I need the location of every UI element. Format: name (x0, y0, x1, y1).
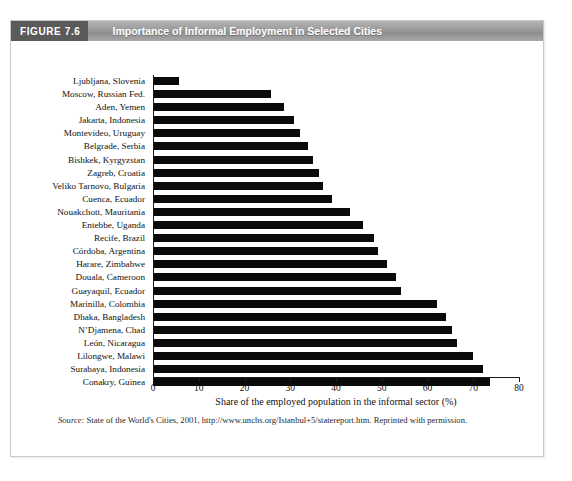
bar-row (153, 258, 519, 271)
y-axis-tick-label: Aden, Yemen (11, 101, 149, 114)
bar (153, 221, 363, 229)
x-axis-tick (290, 377, 291, 382)
bar-row (153, 245, 519, 258)
bar-row (153, 127, 519, 140)
bar-row (153, 271, 519, 284)
bar (153, 352, 473, 360)
x-axis-title: Share of the employed population in the … (153, 396, 519, 407)
bar (153, 287, 401, 295)
bar (153, 103, 284, 111)
bar-row (153, 337, 519, 350)
x-axis-tick-label: 80 (514, 383, 524, 393)
bar (153, 156, 313, 164)
bar-row (153, 298, 519, 311)
bar (153, 77, 179, 85)
y-axis-tick-label: Córdoba, Argentina (11, 245, 149, 258)
y-axis-tick-label: Lilongwe, Malawi (11, 350, 149, 363)
y-axis-tick-label: Marinilla, Colombia (11, 298, 149, 311)
figure-number-badge: FIGURE 7.6 (11, 21, 88, 41)
x-axis-tick (245, 377, 246, 382)
source-text: State of the World's Cities, 2001, http:… (84, 415, 467, 425)
x-axis-tick-label: 0 (151, 383, 156, 393)
y-axis-tick-label: Ljubljana, Slovenia (11, 75, 149, 88)
bar-row (153, 232, 519, 245)
y-axis-tick-label: Nouakchott, Mauritania (11, 206, 149, 219)
bar (153, 129, 300, 137)
y-axis-tick-label: N’Djamena, Chad (11, 324, 149, 337)
bar (153, 273, 396, 281)
bar (153, 208, 350, 216)
bar (153, 326, 452, 334)
x-axis-tick (519, 377, 520, 382)
y-axis-tick-label: Surabaya, Indonesia (11, 363, 149, 376)
x-axis-tick-label: 70 (469, 383, 479, 393)
x-axis-tick-label: 40 (331, 383, 341, 393)
bar-row (153, 219, 519, 232)
y-axis-tick-label: Entebbe, Uganda (11, 219, 149, 232)
x-axis-tick-label: 10 (194, 383, 204, 393)
x-axis-tick (199, 377, 200, 382)
bar-row (153, 75, 519, 88)
bar-row (153, 140, 519, 153)
x-axis-tick-label: 50 (377, 383, 387, 393)
x-axis-tick (428, 377, 429, 382)
figure-title: Importance of Informal Employment in Sel… (112, 25, 382, 37)
bar-row (153, 154, 519, 167)
y-axis-label-list: Ljubljana, SloveniaMoscow, Russian Fed.A… (11, 75, 149, 377)
y-axis-tick-label: Zagreb, Croatia (11, 167, 149, 180)
x-axis-tick (473, 377, 474, 382)
bar-row (153, 180, 519, 193)
y-axis-tick-label: León, Nicaragua (11, 337, 149, 350)
y-axis-tick-label: Guayaquil, Ecuador (11, 285, 149, 298)
bar-row (153, 324, 519, 337)
y-axis-tick-label: Harare, Zimbabwe (11, 258, 149, 271)
bar-row (153, 167, 519, 180)
bar-row (153, 363, 519, 376)
x-axis-tick (153, 377, 154, 382)
bar-row (153, 350, 519, 363)
source-note: Source: State of the World's Cities, 200… (58, 414, 516, 427)
y-axis-tick-label: Veliko Tarnovo, Bulgaria (11, 180, 149, 193)
bar (153, 247, 378, 255)
y-axis-tick-label: Cuenca, Ecuador (11, 193, 149, 206)
bar (153, 169, 319, 177)
bar (153, 182, 323, 190)
bar (153, 339, 457, 347)
bar (153, 365, 483, 373)
y-axis-tick-label: Bishkek, Kyrgyzstan (11, 154, 149, 167)
x-axis-tick (336, 377, 337, 382)
bar (153, 90, 271, 98)
y-axis-tick-label: Dhaka, Bangladesh (11, 311, 149, 324)
bar (153, 195, 332, 203)
x-axis-tick-label: 20 (240, 383, 250, 393)
bar-row (153, 88, 519, 101)
x-axis-tick (382, 377, 383, 382)
source-label: Source: (58, 415, 84, 425)
bar-row (153, 193, 519, 206)
bar-row (153, 311, 519, 324)
y-axis-tick-label: Montevideo, Uruguay (11, 127, 149, 140)
x-axis-tick-label: 30 (286, 383, 296, 393)
y-axis-tick-label: Douala, Cameroon (11, 271, 149, 284)
bar-row (153, 285, 519, 298)
bar (153, 300, 437, 308)
bar (153, 234, 374, 242)
bar-row (153, 114, 519, 127)
bar (153, 313, 446, 321)
bar (153, 142, 308, 150)
bar-row (153, 101, 519, 114)
figure-container: FIGURE 7.6 Importance of Informal Employ… (10, 20, 544, 457)
bar-row (153, 206, 519, 219)
x-axis-tick-label: 60 (423, 383, 433, 393)
y-axis-line (153, 75, 154, 377)
y-axis-tick-label: Belgrade, Serbia (11, 140, 149, 153)
y-axis-tick-label: Conakry, Guinea (11, 376, 149, 389)
bar (153, 260, 387, 268)
y-axis-tick-label: Jakarta, Indonesia (11, 114, 149, 127)
y-axis-tick-label: Recife, Brazil (11, 232, 149, 245)
bar-series-container (153, 75, 519, 377)
bar (153, 116, 294, 124)
figure-header-banner: FIGURE 7.6 Importance of Informal Employ… (11, 21, 543, 41)
y-axis-tick-label: Moscow, Russian Fed. (11, 88, 149, 101)
chart-plot-area: Ljubljana, SloveniaMoscow, Russian Fed.A… (11, 41, 543, 413)
